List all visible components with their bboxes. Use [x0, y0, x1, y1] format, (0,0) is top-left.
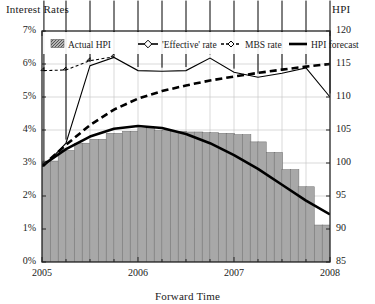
x-tick-label: 2007 [214, 267, 254, 278]
bar [130, 131, 138, 262]
bar [250, 142, 258, 262]
bar [50, 161, 58, 262]
y-tick-label-right: 100 [336, 156, 368, 167]
bar [114, 133, 122, 262]
legend-swatch-actual-hpi [51, 40, 64, 48]
x-tick-label: 2005 [22, 267, 62, 278]
bar [258, 142, 266, 262]
bar [218, 133, 226, 262]
bar [74, 143, 82, 262]
bar [306, 187, 314, 262]
bar [122, 131, 130, 262]
bar [242, 135, 250, 262]
bar [170, 131, 178, 262]
bar [106, 133, 114, 262]
bar [314, 225, 322, 262]
y-tick-label-left: 5% [6, 90, 36, 101]
bar [322, 225, 330, 262]
chart-container: Interest Rates HPI Forward Time Actual H… [0, 0, 375, 304]
y-tick-label-left: 6% [6, 57, 36, 68]
bar [194, 132, 202, 262]
legend-label: MBS rate [245, 40, 282, 50]
y-tick-label-left: 3% [6, 156, 36, 167]
y-tick-label-left: 7% [6, 24, 36, 35]
y-tick-label-right: 90 [336, 222, 368, 233]
bar [138, 129, 146, 262]
y-tick-label-right: 95 [336, 189, 368, 200]
bar [274, 152, 282, 262]
bar [82, 143, 90, 262]
y-tick-label-right: 110 [336, 90, 368, 101]
legend-label: 'Effective' rate [162, 40, 217, 50]
bar [290, 170, 298, 262]
y-tick-label-left: 2% [6, 189, 36, 200]
bar [202, 133, 210, 262]
x-tick-label: 2008 [310, 267, 350, 278]
bar [146, 129, 154, 262]
y-tick-label-left: 1% [6, 222, 36, 233]
bar [210, 133, 218, 262]
y-tick-label-left: 4% [6, 123, 36, 134]
bar [186, 132, 194, 262]
bar [266, 152, 274, 262]
bar [154, 131, 162, 262]
legend-label: Actual HPI [68, 40, 111, 50]
y-tick-label-right: 85 [336, 255, 368, 266]
y-tick-label-right: 120 [336, 24, 368, 35]
bar [98, 139, 106, 262]
y-tick-label-left: 0% [6, 255, 36, 266]
bar [282, 170, 290, 262]
bar [66, 150, 74, 262]
x-tick-label: 2006 [118, 267, 158, 278]
bar [162, 131, 170, 262]
bar [178, 131, 186, 262]
y-tick-label-right: 115 [336, 57, 368, 68]
bar [90, 139, 98, 262]
legend-label: HPI forecast [311, 40, 359, 50]
bar [58, 150, 66, 262]
chart-plot-area: Actual HPI'Effective' rateMBS rateHPI fo… [0, 0, 375, 304]
y-tick-label-right: 105 [336, 123, 368, 134]
bar [234, 135, 242, 262]
bar [42, 161, 50, 262]
